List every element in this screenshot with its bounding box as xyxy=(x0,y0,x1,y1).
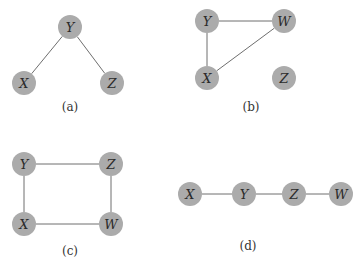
node-y: Y xyxy=(195,9,219,33)
node-label: X xyxy=(184,187,195,202)
node-z: Z xyxy=(272,66,296,90)
node-x: X xyxy=(12,212,36,236)
panel-caption: (c) xyxy=(62,244,78,258)
node-label: Y xyxy=(240,187,250,202)
node-y: Y xyxy=(58,15,82,39)
node-z: Z xyxy=(282,182,306,206)
node-label: Z xyxy=(278,71,289,86)
node-z: Z xyxy=(100,71,124,95)
node-label: W xyxy=(277,14,292,29)
panel-caption: (d) xyxy=(239,239,256,253)
edge-y-z xyxy=(77,37,105,74)
graph-diagram-canvas: YXZ(a)YWXZ(b)YZXW(c)XYZW(d) xyxy=(0,0,362,265)
node-label: W xyxy=(334,187,349,202)
graph-panel-c: YZXW(c) xyxy=(12,152,123,258)
edge-y-x xyxy=(32,36,63,73)
graph-panel-b: YWXZ(b) xyxy=(195,9,296,114)
node-label: Z xyxy=(106,76,117,91)
node-w: W xyxy=(99,212,123,236)
node-y: Y xyxy=(12,152,36,176)
node-label: W xyxy=(104,217,119,232)
node-label: Y xyxy=(203,14,213,29)
node-label: X xyxy=(201,71,212,86)
node-x: X xyxy=(12,71,36,95)
node-w: W xyxy=(272,9,296,33)
panel-caption: (b) xyxy=(242,100,259,114)
edge-x-w xyxy=(217,28,275,71)
node-label: X xyxy=(18,217,29,232)
node-label: Z xyxy=(288,187,299,202)
graph-panel-a: YXZ(a) xyxy=(12,15,124,114)
node-y: Y xyxy=(232,182,256,206)
node-z: Z xyxy=(99,152,123,176)
node-label: Y xyxy=(66,20,76,35)
node-label: Z xyxy=(105,157,116,172)
graph-panel-d: XYZW(d) xyxy=(178,182,353,253)
node-x: X xyxy=(195,66,219,90)
node-label: Y xyxy=(20,157,30,172)
node-x: X xyxy=(178,182,202,206)
panel-caption: (a) xyxy=(62,100,79,114)
node-w: W xyxy=(329,182,353,206)
node-label: X xyxy=(18,76,29,91)
